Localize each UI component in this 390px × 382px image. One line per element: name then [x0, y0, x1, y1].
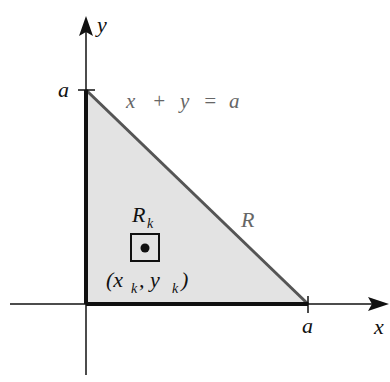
x-tick-label: a	[302, 313, 313, 338]
region-label: R	[240, 207, 255, 232]
svg-text:R: R	[131, 202, 146, 227]
y-axis-label: y	[95, 12, 107, 37]
svg-text:k: k	[131, 281, 138, 296]
svg-text:): )	[179, 267, 188, 292]
svg-text:k: k	[147, 216, 154, 231]
svg-text:x: x	[125, 89, 136, 113]
y-tick-label: a	[58, 77, 69, 102]
svg-text:, y: , y	[139, 267, 160, 292]
svg-text:a: a	[229, 89, 240, 113]
svg-text:k: k	[172, 281, 179, 296]
svg-text:(x: (x	[106, 267, 123, 292]
region-diagram: y x a a x + y = a R R k (x k , y k )	[0, 0, 390, 382]
svg-text:=: =	[203, 89, 217, 113]
line-equation-label: x + y = a	[125, 89, 240, 113]
svg-text:y: y	[178, 89, 190, 113]
sample-point	[141, 244, 150, 253]
svg-text:+: +	[152, 89, 166, 113]
x-axis-label: x	[373, 314, 384, 339]
